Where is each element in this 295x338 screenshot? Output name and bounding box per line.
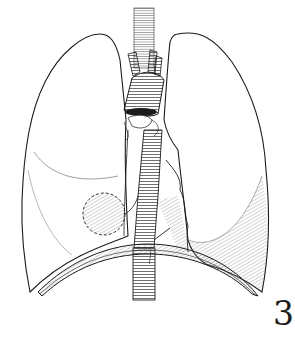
aortic-arch bbox=[124, 72, 164, 116]
thorax-illustration bbox=[0, 0, 295, 338]
esophagus bbox=[124, 130, 162, 300]
figure-number: 3 bbox=[273, 297, 294, 331]
anatomy-figure: 3 bbox=[0, 0, 295, 338]
spherical-mass bbox=[83, 193, 138, 235]
